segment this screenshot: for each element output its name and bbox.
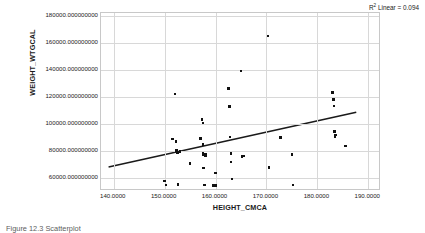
data-point (163, 180, 166, 183)
data-point (242, 155, 245, 158)
data-point (201, 118, 204, 121)
gridline-horizontal (101, 43, 379, 44)
data-point (268, 166, 271, 169)
data-point (165, 184, 168, 187)
y-axis-tick-label: 80000.000000000 (14, 146, 98, 153)
r-squared-annotation: R2 Linear = 0.094 (369, 3, 419, 11)
gridline-vertical (114, 13, 115, 189)
plot-area (100, 12, 380, 190)
gridline-horizontal (101, 16, 379, 17)
gridline-horizontal (101, 151, 379, 152)
gridline-horizontal (101, 178, 379, 179)
x-axis-tick-label: 190.0000 (337, 192, 397, 199)
y-axis-tick-label: 120000.000000000 (14, 92, 98, 99)
data-point (333, 105, 336, 108)
data-point (291, 153, 294, 156)
data-point (214, 184, 217, 187)
data-point (203, 184, 206, 187)
figure-caption: Figure 12.3 Scatterplot (6, 224, 81, 233)
data-point (334, 134, 337, 137)
data-point (179, 150, 182, 153)
data-point (231, 178, 234, 181)
regression-line (101, 13, 379, 189)
data-point (214, 172, 217, 175)
data-point (333, 130, 336, 133)
gridline-horizontal (101, 124, 379, 125)
data-point (331, 91, 334, 94)
data-point (267, 35, 270, 38)
y-axis-tick-label: 140000.000000000 (14, 65, 98, 72)
gridline-vertical (317, 13, 318, 189)
data-point (240, 70, 243, 73)
x-axis-title: HEIGHT_CMCA (100, 203, 380, 212)
y-axis-tick-label: 180000.000000000 (14, 11, 98, 18)
data-point (204, 154, 207, 157)
gridline-vertical (266, 13, 267, 189)
data-point (189, 162, 192, 165)
y-axis-tick-label: 60000.000000000 (14, 173, 98, 180)
data-point (175, 140, 178, 143)
data-point (292, 184, 295, 187)
data-point (227, 87, 230, 90)
gridline-vertical (216, 13, 217, 189)
data-point (344, 145, 347, 148)
data-point (279, 136, 282, 139)
r-squared-value-text: Linear = 0.094 (376, 4, 419, 11)
scatter-plot-figure: WEIGHT_WTGCAL 60000.00000000080000.00000… (0, 0, 425, 233)
data-point (202, 122, 205, 125)
y-axis-tick-label: 100000.000000000 (14, 119, 98, 126)
data-point (229, 136, 232, 139)
y-axis-tick-label: 160000.000000000 (14, 38, 98, 45)
data-point (171, 138, 174, 141)
data-point (230, 152, 233, 155)
data-point (230, 161, 233, 164)
data-point (202, 144, 205, 147)
data-point (202, 167, 205, 170)
data-point (174, 93, 177, 96)
data-point (199, 137, 202, 140)
data-point (332, 98, 335, 101)
data-point (228, 105, 231, 108)
gridline-horizontal (101, 97, 379, 98)
data-point (177, 183, 180, 186)
gridline-vertical (165, 13, 166, 189)
gridline-vertical (368, 13, 369, 189)
